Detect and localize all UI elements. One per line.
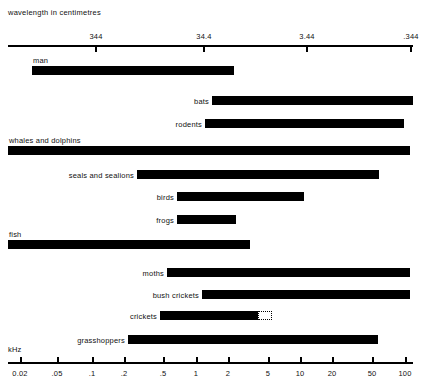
- x-axis-tick: [92, 357, 94, 363]
- x-axis-tick-label: 1: [194, 369, 198, 378]
- top-axis-tick-label: 344: [89, 32, 102, 41]
- bottom-axis-line: [8, 362, 413, 364]
- range-bar: [8, 146, 410, 155]
- x-axis-tick-label: .1: [89, 369, 96, 378]
- range-bar: [137, 170, 379, 179]
- x-axis-tick: [300, 357, 302, 363]
- top-axis-tick: [95, 46, 97, 52]
- x-axis-tick: [20, 357, 22, 363]
- x-axis-tick-label: 2: [226, 369, 230, 378]
- x-axis-tick: [228, 357, 230, 363]
- bar-label: frogs: [156, 216, 174, 225]
- audio-frequency-range-chart: wavelength in centimetres 34434.43.44.34…: [0, 0, 423, 392]
- x-axis-tick: [163, 357, 165, 363]
- bar-label: whales and dolphins: [9, 136, 81, 145]
- top-axis-caption: wavelength in centimetres: [8, 8, 101, 17]
- bar-label: crickets: [130, 312, 157, 321]
- bar-label: grasshoppers: [77, 336, 125, 345]
- x-axis-tick: [57, 357, 59, 363]
- bottom-axis-caption: kHz: [8, 345, 22, 354]
- top-axis-tick: [410, 46, 412, 52]
- bar-label: bush crickets: [153, 291, 199, 300]
- bar-label: birds: [157, 193, 174, 202]
- range-bar: [212, 96, 413, 105]
- top-axis-tick-label: .344: [403, 32, 418, 41]
- x-axis-tick: [405, 357, 407, 363]
- x-axis-tick: [124, 357, 126, 363]
- range-bar: [32, 66, 234, 75]
- range-bar: [177, 215, 236, 224]
- x-axis-tick-label: 10: [296, 369, 305, 378]
- bar-label: moths: [143, 269, 164, 278]
- range-bar: [167, 268, 410, 277]
- range-bar: [202, 290, 410, 299]
- range-bar: [8, 240, 250, 249]
- x-axis-tick-label: .2: [121, 369, 128, 378]
- top-axis-tick-label: 34.4: [196, 32, 211, 41]
- range-bar: [177, 192, 304, 201]
- top-axis-tick: [306, 46, 308, 52]
- bar-label: bats: [194, 97, 209, 106]
- x-axis-tick-label: 5: [266, 369, 270, 378]
- x-axis-tick-label: 0.02: [12, 369, 27, 378]
- top-axis-tick-label: 3.44: [299, 32, 314, 41]
- range-bar: [128, 335, 378, 344]
- bar-label: fish: [9, 230, 21, 239]
- range-bar: [205, 119, 404, 128]
- range-bar: [160, 311, 258, 320]
- bar-label: man: [33, 56, 48, 65]
- x-axis-tick: [268, 357, 270, 363]
- x-axis-tick-label: 50: [368, 369, 377, 378]
- x-axis-tick: [332, 357, 334, 363]
- range-bar-dotted-extension: [258, 311, 272, 320]
- bar-label: seals and sealions: [69, 171, 134, 180]
- x-axis-tick-label: .5: [160, 369, 167, 378]
- x-axis-tick-label: .05: [51, 369, 62, 378]
- x-axis-tick: [196, 357, 198, 363]
- x-axis-tick-label: 100: [398, 369, 411, 378]
- bar-label: rodents: [176, 120, 202, 129]
- x-axis-tick-label: 20: [328, 369, 337, 378]
- top-axis-tick: [203, 46, 205, 52]
- x-axis-tick: [372, 357, 374, 363]
- top-axis-line: [8, 45, 413, 47]
